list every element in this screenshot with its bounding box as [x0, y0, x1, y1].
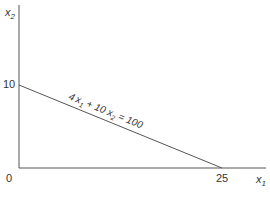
line-diagram: x2 10 0 25 x1 4x1 + 10 x2 = 100 [0, 0, 270, 201]
x-intercept-label: 25 [216, 172, 228, 184]
y-intercept-label: 10 [3, 78, 15, 90]
y-axis-label: x2 [4, 6, 16, 21]
constraint-line [19, 85, 222, 168]
svg-text:4x1 + 10 x2 = 100: 4x1 + 10 x2 = 100 [67, 91, 145, 133]
origin-label: 0 [6, 172, 12, 184]
x-axis-label: x1 [255, 173, 266, 188]
equation-label: 4x1 + 10 x2 = 100 [67, 91, 145, 133]
